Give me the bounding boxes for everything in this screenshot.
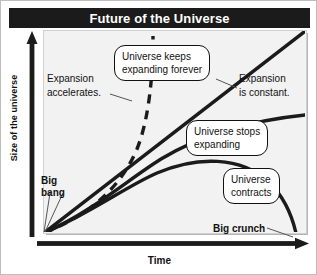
annotation-line-1: Big — [41, 175, 65, 187]
callout-line-2: expanding — [194, 138, 260, 151]
callout-universe-contracts[interactable]: Universe contracts — [223, 168, 280, 204]
annotation-line-2: is constant. — [239, 86, 290, 100]
callout-universe-keeps-expanding[interactable]: Universe keeps expanding forever — [114, 45, 210, 81]
annotation-expansion-accelerates: Expansion accelerates. — [47, 72, 101, 99]
annotation-big-bang: Big bang — [41, 175, 65, 199]
annotation-line-1: Expansion — [239, 72, 290, 86]
annotation-expansion-is-constant: Expansion is constant. — [239, 72, 290, 99]
callout-line-1: Universe — [231, 173, 272, 186]
callout-line-2: contracts — [231, 186, 272, 199]
leader-line-constant — [216, 79, 237, 88]
callout-line-1: Universe keeps — [122, 50, 202, 63]
curve-layer — [1, 1, 317, 275]
annotation-line-2: accelerates. — [47, 86, 101, 100]
callout-line-2: expanding forever — [122, 63, 202, 76]
leader-line-accelerates — [110, 94, 132, 101]
figure-panel: Future of the Universe Size of the unive… — [0, 0, 317, 275]
annotation-big-crunch: Big crunch — [213, 223, 265, 235]
annotation-line-1: Expansion — [47, 72, 101, 86]
leader-line-big-crunch — [267, 228, 293, 237]
callout-line-1: Universe stops — [194, 125, 260, 138]
callout-universe-stops-expanding[interactable]: Universe stops expanding — [186, 120, 268, 156]
annotation-line-2: bang — [41, 187, 65, 199]
